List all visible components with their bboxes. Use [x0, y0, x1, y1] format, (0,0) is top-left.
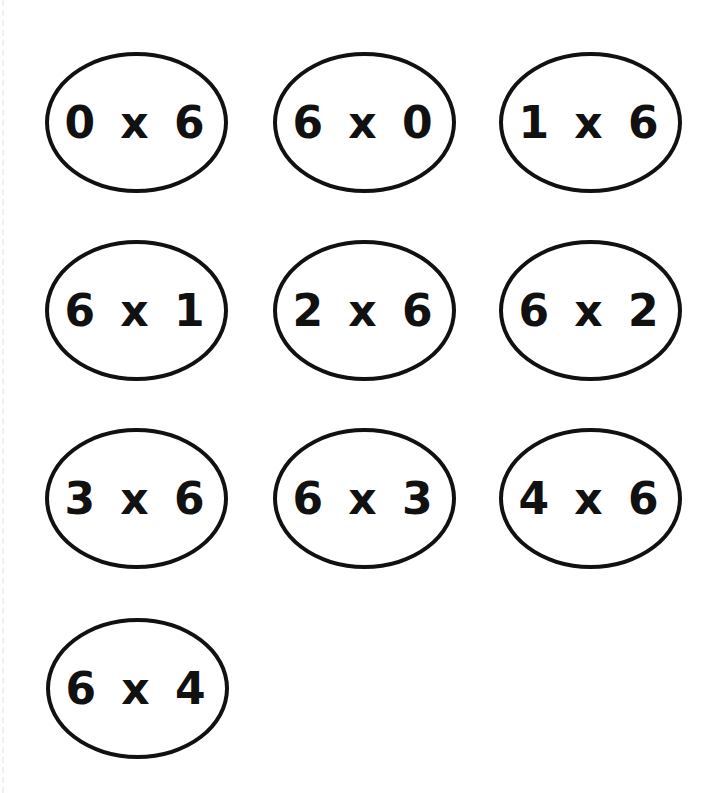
- fact-label: 6 x 0: [292, 97, 436, 148]
- fact-label: 6 x 4: [65, 663, 209, 714]
- fact-card: 4 x 6: [499, 428, 682, 569]
- fact-card: 6 x 1: [45, 240, 228, 381]
- fact-label: 6 x 1: [64, 285, 208, 336]
- fact-label: 4 x 6: [518, 473, 662, 524]
- fact-card: 6 x 0: [273, 52, 456, 193]
- fact-card: 6 x 2: [499, 240, 682, 381]
- fact-card: 0 x 6: [45, 52, 228, 193]
- fact-label: 6 x 2: [518, 285, 662, 336]
- cut-line: [2, 0, 4, 793]
- fact-label: 1 x 6: [518, 97, 662, 148]
- fact-label: 3 x 6: [64, 473, 208, 524]
- fact-card: 2 x 6: [273, 240, 456, 381]
- fact-label: 0 x 6: [64, 97, 208, 148]
- fact-label: 6 x 3: [292, 473, 436, 524]
- fact-card: 1 x 6: [499, 52, 682, 193]
- fact-card: 6 x 4: [46, 618, 229, 759]
- fact-card: 3 x 6: [45, 428, 228, 569]
- fact-label: 2 x 6: [292, 285, 436, 336]
- fact-card: 6 x 3: [273, 428, 456, 569]
